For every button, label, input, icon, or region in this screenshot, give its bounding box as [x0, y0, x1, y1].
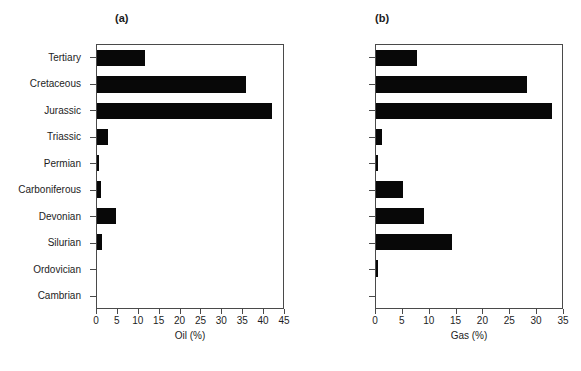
x-tick-15 [456, 309, 457, 314]
x-tick-label-35: 35 [557, 315, 568, 326]
y-axis-label-silurian: Silurian [8, 230, 88, 257]
bar-row [97, 98, 283, 124]
bar-ordovician [376, 260, 378, 276]
x-tick-0 [96, 309, 97, 314]
panel-b-label: (b) [375, 12, 389, 24]
x-tick-label-20: 20 [477, 315, 488, 326]
bar-row [376, 176, 562, 202]
bar-row [376, 203, 562, 229]
x-tick-30 [536, 309, 537, 314]
plot-area-a [96, 44, 284, 309]
bar-devonian [97, 208, 116, 224]
bar-row [97, 176, 283, 202]
y-axis-category-labels-a: TertiaryCretaceousJurassicTriassicPermia… [8, 44, 88, 309]
x-tick-label-15: 15 [153, 315, 164, 326]
x-tick-label-5: 5 [399, 315, 405, 326]
bar-devonian [376, 208, 424, 224]
bar-row [97, 203, 283, 229]
bar-silurian [376, 234, 452, 250]
x-tick-20 [180, 309, 181, 314]
y-axis-label-carboniferous: Carboniferous [8, 177, 88, 204]
x-tick-label-15: 15 [450, 315, 461, 326]
bar-rows-b [376, 45, 562, 308]
bar-carboniferous [97, 181, 101, 197]
panel-a: (a) TertiaryCretaceousJurassicTriassicPe… [0, 0, 300, 371]
x-tick-label-10: 10 [423, 315, 434, 326]
x-tick-10 [429, 309, 430, 314]
bar-permian [376, 155, 378, 171]
x-tick-35 [563, 309, 564, 314]
x-tick-30 [221, 309, 222, 314]
bar-silurian [97, 234, 102, 250]
bar-row [97, 229, 283, 255]
bar-row [376, 282, 562, 308]
bar-row [97, 255, 283, 281]
bar-row [376, 98, 562, 124]
bar-rows-a [97, 45, 283, 308]
x-tick-10 [138, 309, 139, 314]
y-axis-label-cretaceous: Cretaceous [8, 71, 88, 98]
bar-row [376, 150, 562, 176]
x-tick-label-0: 0 [372, 315, 378, 326]
bar-row [376, 229, 562, 255]
x-tick-0 [375, 309, 376, 314]
plot-area-b [375, 44, 563, 309]
bar-row [97, 124, 283, 150]
bar-cretaceous [376, 76, 527, 92]
x-tick-label-10: 10 [132, 315, 143, 326]
y-axis-label-ordovician: Ordovician [8, 256, 88, 283]
x-tick-25 [200, 309, 201, 314]
x-tick-label-25: 25 [195, 315, 206, 326]
x-tick-label-25: 25 [504, 315, 515, 326]
bar-row [376, 255, 562, 281]
figure-bar-chart-oil-gas: (a) TertiaryCretaceousJurassicTriassicPe… [0, 0, 581, 371]
x-tick-15 [159, 309, 160, 314]
x-tick-label-0: 0 [93, 315, 99, 326]
bar-triassic [376, 129, 382, 145]
panel-a-label: (a) [115, 12, 128, 24]
y-axis-label-cambrian: Cambrian [8, 283, 88, 310]
panel-b: (b) 05101520253035 Gas (%) [281, 0, 581, 371]
x-tick-40 [263, 309, 264, 314]
bar-triassic [97, 129, 108, 145]
x-tick-20 [482, 309, 483, 314]
y-axis-label-devonian: Devonian [8, 203, 88, 230]
bar-row [376, 71, 562, 97]
y-axis-label-triassic: Triassic [8, 124, 88, 151]
x-tick-25 [509, 309, 510, 314]
bar-row [376, 124, 562, 150]
x-axis-title-a: Oil (%) [175, 330, 206, 341]
bar-tertiary [376, 50, 417, 66]
x-tick-5 [117, 309, 118, 314]
x-axis-ticks-b: 05101520253035 [375, 309, 563, 329]
x-tick-label-30: 30 [531, 315, 542, 326]
bar-row [97, 45, 283, 71]
bar-row [97, 282, 283, 308]
y-axis-label-jurassic: Jurassic [8, 97, 88, 124]
x-axis-title-b: Gas (%) [451, 330, 488, 341]
bar-row [97, 71, 283, 97]
bar-cretaceous [97, 76, 246, 92]
bar-tertiary [97, 50, 145, 66]
x-tick-35 [242, 309, 243, 314]
x-tick-label-35: 35 [237, 315, 248, 326]
x-tick-label-30: 30 [216, 315, 227, 326]
bar-row [97, 150, 283, 176]
bar-row [376, 45, 562, 71]
bar-permian [97, 155, 99, 171]
y-axis-label-permian: Permian [8, 150, 88, 177]
x-tick-label-5: 5 [114, 315, 120, 326]
y-axis-label-tertiary: Tertiary [8, 44, 88, 71]
bar-jurassic [376, 103, 552, 119]
x-axis-ticks-a: 051015202530354045 [96, 309, 284, 329]
x-tick-label-40: 40 [258, 315, 269, 326]
x-tick-label-20: 20 [174, 315, 185, 326]
x-tick-5 [402, 309, 403, 314]
bar-jurassic [97, 103, 272, 119]
bar-carboniferous [376, 181, 403, 197]
